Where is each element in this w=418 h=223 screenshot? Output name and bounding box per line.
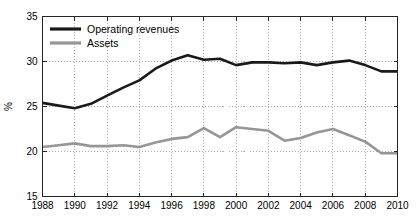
xtick-label: 2000 [225, 200, 248, 211]
xtick-label: 2004 [290, 200, 313, 211]
ytick-label: 35 [26, 11, 38, 22]
xtick-label: 1996 [160, 200, 183, 211]
series-line-1 [43, 127, 398, 153]
xtick-label: 2010 [386, 200, 409, 211]
series-layer [43, 55, 398, 153]
legend-label-1: Assets [87, 37, 119, 49]
series-line-0 [43, 55, 398, 108]
line-chart: 1988199019921994199619982000200220042006… [0, 0, 418, 223]
legend-label-0: Operating revenues [87, 23, 179, 35]
axis-title-layer: % [3, 102, 14, 111]
xtick-label: 1994 [128, 200, 151, 211]
ytick-label: 20 [26, 146, 38, 157]
chart-figure: 1988199019921994199619982000200220042006… [0, 0, 418, 223]
xtick-label: 1998 [193, 200, 216, 211]
y-axis-title: % [3, 102, 14, 111]
ytick-label: 30 [26, 56, 38, 67]
tick-label-layer: 1988199019921994199619982000200220042006… [26, 11, 409, 211]
xtick-label: 2006 [322, 200, 345, 211]
xtick-label: 1992 [96, 200, 119, 211]
xtick-label: 2008 [354, 200, 377, 211]
ytick-label: 15 [26, 191, 38, 202]
ytick-label: 25 [26, 101, 38, 112]
xtick-label: 2002 [257, 200, 280, 211]
xtick-label: 1990 [64, 200, 87, 211]
legend-layer: Operating revenuesAssets [50, 23, 179, 49]
